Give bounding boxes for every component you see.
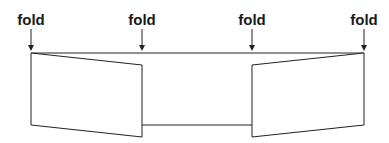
right-flap-panel — [252, 53, 364, 137]
fold-arrow-2 — [139, 29, 145, 51]
fold-arrow-4 — [361, 29, 367, 51]
fold-arrow-1 — [28, 29, 34, 51]
fold-label-4: fold — [350, 11, 378, 28]
fold-diagram: fold fold fold fold — [0, 0, 389, 143]
left-flap-panel — [31, 53, 142, 137]
fold-label-3: fold — [238, 11, 266, 28]
fold-label-2: fold — [128, 11, 156, 28]
fold-arrow-3 — [249, 29, 255, 51]
fold-label-1: fold — [17, 11, 45, 28]
